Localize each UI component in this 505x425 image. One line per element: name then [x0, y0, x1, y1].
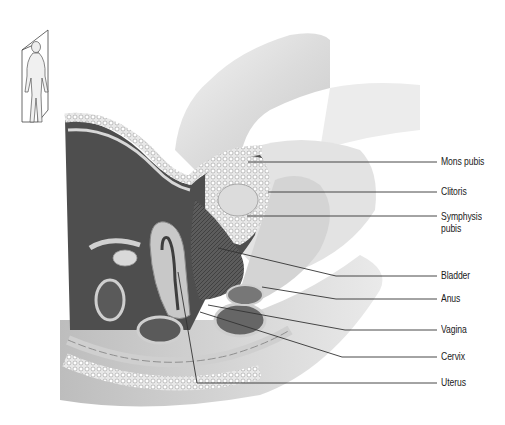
label-vagina: Vagina [441, 324, 467, 335]
label-symphysis-line2: pubis [441, 222, 482, 234]
label-uterus: Uterus [441, 377, 466, 388]
label-symphysis-line1: Symphysis [441, 210, 482, 222]
inset-figure-icon [22, 30, 48, 122]
symphysis-pubis-shape [218, 184, 258, 216]
anatomy-figure: Mons pubis Clitoris Symphysis pubis Blad… [0, 0, 505, 425]
label-anus: Anus [441, 293, 460, 304]
label-symphysis-pubis: Symphysis pubis [441, 210, 482, 234]
label-bladder: Bladder [441, 270, 470, 281]
label-clitoris: Clitoris [441, 186, 467, 197]
label-mons-pubis: Mons pubis [441, 156, 484, 167]
anatomy-illustration [0, 0, 505, 425]
label-cervix: Cervix [441, 351, 465, 362]
